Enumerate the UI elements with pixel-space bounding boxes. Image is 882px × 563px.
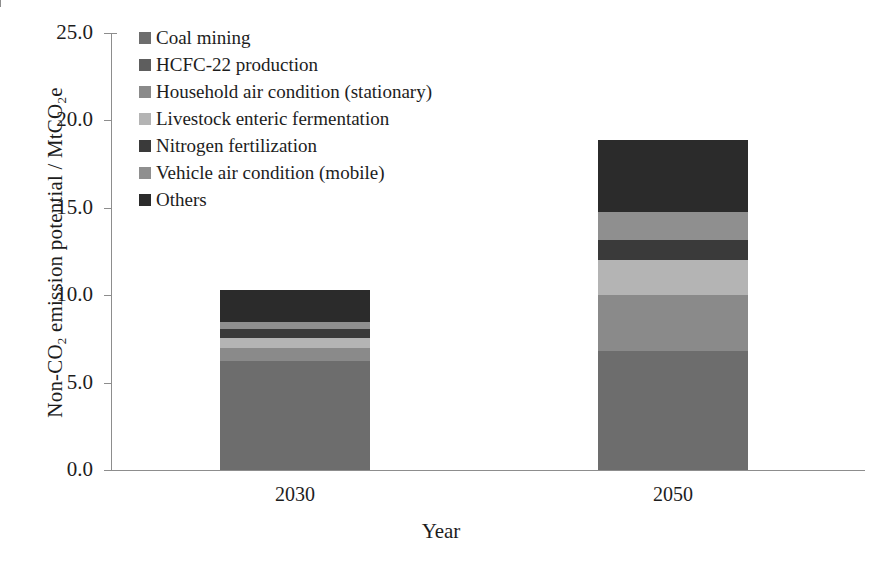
y-axis-title-suffix: e <box>43 87 67 97</box>
y-axis-tick-label: 0.0 <box>67 457 93 482</box>
y-axis-tick <box>104 120 112 121</box>
y-axis-tick-label: 25.0 <box>56 20 93 45</box>
bar-segment[interactable] <box>598 260 748 295</box>
bar-segment[interactable] <box>598 212 748 240</box>
x-axis-right-cap <box>0 0 1 7</box>
bar-segment[interactable] <box>598 240 748 260</box>
y-axis-title-prefix: Non-CO <box>43 344 67 418</box>
stacked-bar-chart: Non-CO2 emission potential / MtCO2e 0.05… <box>0 0 882 563</box>
y-axis-tick <box>104 295 112 296</box>
y-axis-tick <box>104 33 112 34</box>
y-axis-title-sub-1: 2 <box>54 337 69 344</box>
bar-segment[interactable] <box>598 140 748 213</box>
bar-segment[interactable] <box>220 361 370 470</box>
stacked-bar-2050[interactable] <box>598 140 748 470</box>
y-axis-tick <box>104 470 112 471</box>
x-axis-title: Year <box>0 519 882 544</box>
y-axis-tick-label: 15.0 <box>56 195 93 220</box>
x-axis-line <box>111 470 865 471</box>
y-axis-tick-label: 20.0 <box>56 107 93 132</box>
bar-segment[interactable] <box>598 295 748 351</box>
y-axis-tick <box>104 383 112 384</box>
bar-segment[interactable] <box>220 329 370 338</box>
bar-segment[interactable] <box>220 322 370 329</box>
y-axis-tick <box>104 208 112 209</box>
bar-segment[interactable] <box>220 290 370 322</box>
x-axis-tick-label: 2050 <box>653 483 693 506</box>
bar-segment[interactable] <box>220 348 370 361</box>
bar-segment[interactable] <box>220 338 370 348</box>
x-axis-tick-label: 2030 <box>275 483 315 506</box>
y-axis-title-sub-2: 2 <box>54 97 69 104</box>
y-axis-title: Non-CO2 emission potential / MtCO2e <box>43 18 68 488</box>
plot-area <box>112 33 865 470</box>
y-axis-tick-label: 5.0 <box>67 370 93 395</box>
bar-segment[interactable] <box>598 351 748 470</box>
stacked-bar-2030[interactable] <box>220 290 370 470</box>
y-axis-tick-label: 10.0 <box>56 282 93 307</box>
